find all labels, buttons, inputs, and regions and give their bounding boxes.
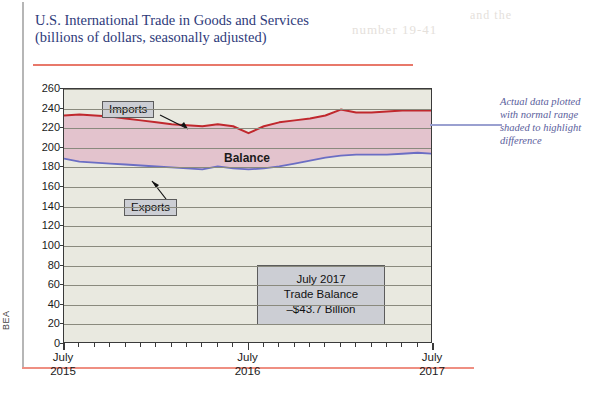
x-axis-label-group: July2015 [50,350,76,378]
x-tick-5 [140,343,141,347]
y-tick-label-160: 160 [42,180,60,192]
gridline-60 [64,285,431,286]
x-tick-4 [125,343,126,347]
y-tick-label-140: 140 [42,200,60,212]
annotation-line3: shaded to highlight [500,121,592,134]
gridline-200 [64,148,431,149]
gridline-20 [64,324,431,325]
title-divider [33,64,413,66]
y-tick-label-180: 180 [42,160,60,172]
x-axis-label-group: July2016 [235,350,261,378]
figure-panel: U.S. International Trade in Goods and Se… [30,6,474,364]
annotation-line2: with normal range [500,108,592,121]
x-tick-3 [109,343,110,347]
x-tick-1 [78,343,79,347]
bleed-through-text-2: and the [470,8,512,23]
annotation-line4: difference [500,134,592,147]
side-annotation: Actual data plotted with normal range sh… [500,95,592,147]
x-tick-6 [155,343,156,347]
figure-title-line2: (billions of dollars, seasonally adjuste… [35,29,365,46]
y-axis-labels: 020406080100120140160180200220240260 [30,88,60,343]
x-tick-7 [171,343,172,347]
x-label-month: July [419,350,445,364]
figure-page: number 19-41 and the figure BEA U.S. Int… [0,0,595,399]
x-tick-16 [309,343,310,347]
y-tick-label-120: 120 [42,219,60,231]
x-tick-9 [201,343,202,347]
x-tick-24 [432,343,434,350]
x-tick-12 [248,343,250,350]
annotation-line1: Actual data plotted [500,95,592,108]
stat-box-line2: Trade Balance [258,287,384,302]
x-label-month: July [235,350,261,364]
gridline-140 [64,207,431,208]
plot-area: Imports Exports Balance July 2017 Trade … [63,88,432,343]
gridline-220 [64,128,431,129]
x-tick-19 [355,343,356,347]
page-left-border [22,2,24,368]
y-tick-label-100: 100 [42,239,60,251]
gridline-100 [64,246,431,247]
x-tick-10 [217,343,218,347]
y-tick-label-60: 60 [48,278,60,290]
x-tick-18 [340,343,341,347]
x-label-year: 2015 [50,364,76,378]
x-tick-8 [186,343,187,347]
gridline-260 [64,89,431,90]
x-label-year: 2016 [235,364,261,378]
imports-leader-line [160,115,188,129]
x-tick-2 [94,343,95,347]
x-tick-21 [386,343,387,347]
x-tick-20 [371,343,372,347]
figure-title-line1: U.S. International Trade in Goods and Se… [35,12,309,28]
x-axis-ticks [63,343,432,350]
chart: 020406080100120140160180200220240260 Imp… [63,88,432,343]
gridline-80 [64,266,431,267]
gridline-160 [64,187,431,188]
trade-balance-stat-box: July 2017 Trade Balance –$43.7 Billion [257,265,385,325]
x-tick-15 [294,343,295,347]
x-tick-13 [263,343,264,347]
x-tick-14 [278,343,279,347]
y-tick-label-20: 20 [48,317,60,329]
gridline-120 [64,226,431,227]
balance-label: Balance [224,151,270,165]
x-tick-17 [324,343,325,347]
y-tick-label-220: 220 [42,121,60,133]
gridline-180 [64,167,431,168]
x-tick-23 [417,343,418,347]
x-tick-0 [63,343,65,350]
y-tick-label-200: 200 [42,141,60,153]
y-tick-label-260: 260 [42,82,60,94]
figure-title: U.S. International Trade in Goods and Se… [35,12,365,46]
x-tick-11 [232,343,233,347]
x-axis-labels: July2015July2016July2017 [63,350,432,384]
x-label-month: July [50,350,76,364]
y-tick-label-80: 80 [48,259,60,271]
y-tick-label-240: 240 [42,102,60,114]
gridline-40 [64,305,431,306]
y-tick-label-40: 40 [48,298,60,310]
gridline-240 [64,109,431,110]
x-label-year: 2017 [419,364,445,378]
annotation-leader-line [430,124,502,126]
x-axis-label-group: July2017 [419,350,445,378]
x-tick-22 [401,343,402,347]
source-label-bea: BEA [1,310,11,330]
